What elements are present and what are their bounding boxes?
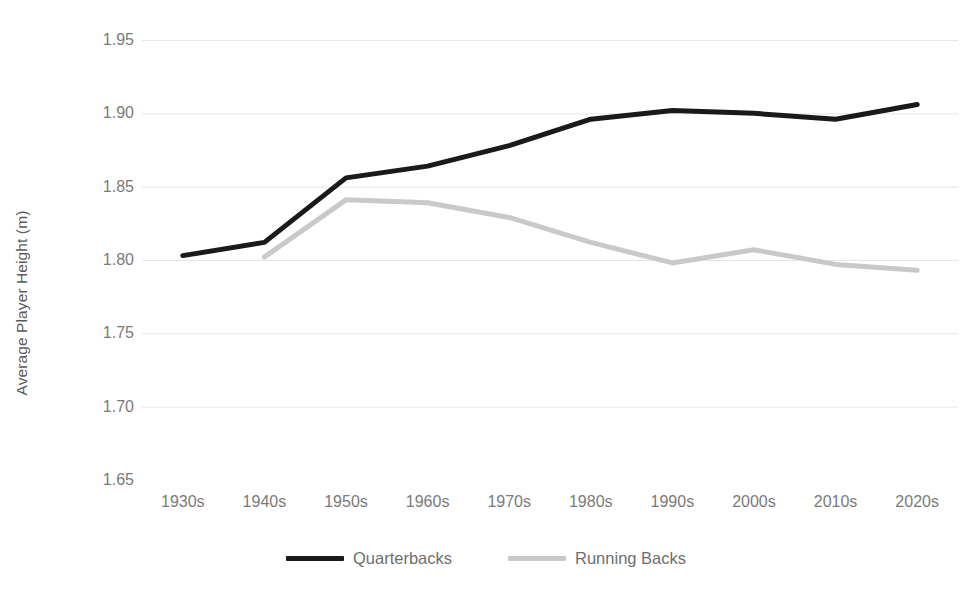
y-axis-title: Average Player Height (m)	[0, 0, 44, 606]
x-axis-tick-label: 2020s	[876, 489, 958, 515]
legend-item[interactable]: Quarterbacks	[286, 550, 452, 567]
legend-line-icon	[508, 556, 566, 561]
chart-container: Average Player Height (m) 1.951.901.851.…	[0, 0, 972, 606]
y-axis-tick-label: 1.80	[60, 252, 134, 268]
x-axis-tick-label: 1980s	[550, 489, 632, 515]
y-axis-tick-label: 1.95	[60, 32, 134, 48]
y-axis-tick-label: 1.65	[60, 472, 134, 488]
x-axis-tick-labels: 1930s1940s1950s1960s1970s1980s1990s2000s…	[142, 489, 958, 515]
y-axis-tick-label: 1.70	[60, 399, 134, 415]
y-axis-tick-label: 1.85	[60, 179, 134, 195]
series-line	[183, 105, 917, 256]
x-axis-tick-label: 1930s	[142, 489, 224, 515]
x-axis-tick-label: 1950s	[305, 489, 387, 515]
x-axis-tick-label: 1970s	[468, 489, 550, 515]
legend-label: Quarterbacks	[353, 550, 452, 567]
x-axis-tick-label: 1940s	[224, 489, 306, 515]
legend-label: Running Backs	[575, 550, 686, 567]
y-axis-tick-labels: 1.951.901.851.801.751.701.65	[58, 0, 134, 606]
legend-line-icon	[286, 556, 344, 561]
legend-item[interactable]: Running Backs	[508, 550, 686, 567]
x-axis-tick-label: 1990s	[632, 489, 714, 515]
plot-area	[142, 40, 958, 480]
x-axis-tick-label: 2000s	[713, 489, 795, 515]
y-axis-tick-label: 1.90	[60, 105, 134, 121]
y-axis-tick-label: 1.75	[60, 325, 134, 341]
x-axis-tick-label: 2010s	[795, 489, 877, 515]
plot-svg	[142, 40, 958, 480]
x-axis-tick-label: 1960s	[387, 489, 469, 515]
gridlines	[142, 41, 958, 481]
series-line	[264, 200, 917, 270]
chart-legend: QuarterbacksRunning Backs	[0, 540, 972, 576]
